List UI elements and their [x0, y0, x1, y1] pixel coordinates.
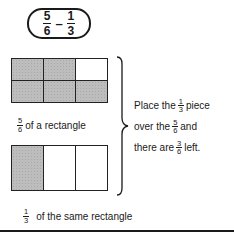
fraction-five-sixths: 5 6: [43, 10, 52, 37]
caption-text: of the same rectangle: [36, 211, 132, 222]
inline-fraction: 5 6: [172, 119, 178, 135]
minus-sign: –: [55, 16, 62, 31]
curly-brace-icon: [116, 56, 130, 196]
rectangle-cell: [44, 81, 75, 102]
rectangle-cell: [44, 59, 75, 80]
five-sixths-caption: 5 6 of a rectangle: [17, 117, 86, 133]
rectangle-cell: [76, 59, 107, 80]
five-sixths-rectangle: [11, 58, 108, 103]
rectangle-cell: [44, 146, 75, 190]
explanation-line-1: Place the 1 3 piece: [134, 95, 210, 116]
explanation-line-2: over the 5 6 and: [134, 116, 210, 137]
explanation-line-3: there are 3 6 left.: [134, 137, 210, 158]
rectangle-cell: [76, 81, 107, 102]
inline-fraction: 3 6: [176, 140, 182, 156]
fraction-subtraction-expression: 5 6 – 1 3: [27, 8, 91, 39]
caption-text: of a rectangle: [25, 120, 86, 131]
caption-fraction: 1 3: [23, 208, 29, 224]
fraction-one-third: 1 3: [67, 10, 76, 37]
rectangle-cell: [12, 59, 43, 80]
inline-fraction: 1 3: [178, 98, 184, 114]
explanation-text: Place the 1 3 piece over the 5 6 and the…: [134, 95, 210, 158]
one-third-caption: 1 3 of the same rectangle: [23, 208, 132, 224]
rectangle-cell: [12, 146, 43, 190]
bottom-divider: [0, 230, 234, 232]
rectangle-cell: [12, 81, 43, 102]
caption-fraction: 5 6: [17, 117, 23, 133]
one-third-rectangle: [11, 145, 108, 191]
rectangle-cell: [76, 146, 107, 190]
